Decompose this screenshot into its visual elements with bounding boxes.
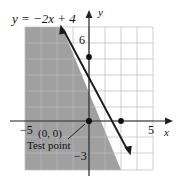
x-tick-label-minus-5: −5 [20, 124, 33, 136]
x-tick-label-5: 5 [148, 124, 154, 136]
test-point-marker [86, 118, 92, 124]
graph-figure: y = −2x + 4 y x 6 −3 −5 5 (0, 0) Test po… [0, 0, 181, 176]
x-axis-label: x [164, 127, 169, 138]
y-axis-label: y [98, 7, 103, 18]
equation-label: y = −2x + 4 [12, 12, 76, 25]
test-point-coordinates-label: (0, 0) [38, 128, 62, 139]
test-point-caption: Test point [27, 140, 71, 151]
y-tick-label-minus-3: −3 [74, 150, 87, 162]
y-tick-label-6: 6 [79, 34, 85, 46]
